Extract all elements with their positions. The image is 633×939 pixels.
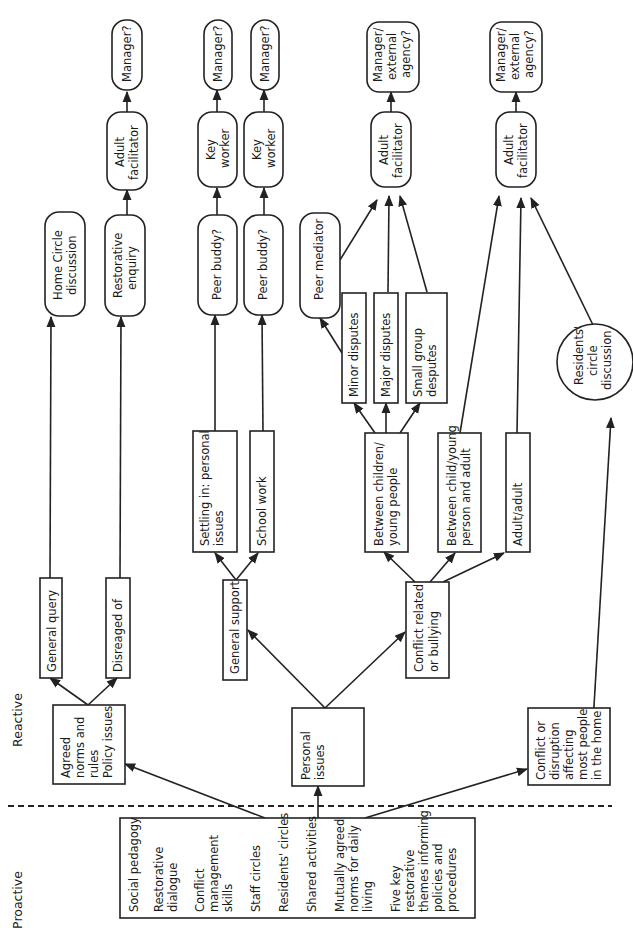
- node-manager-3: Manager?: [251, 20, 279, 90]
- svg-text:affecting: affecting: [562, 729, 576, 780]
- svg-text:General support: General support: [228, 580, 242, 674]
- svg-text:enquiry: enquiry: [125, 246, 139, 290]
- svg-text:most people: most people: [576, 709, 590, 780]
- node-restorative-enquiry: Restorative enquiry: [105, 215, 145, 316]
- svg-text:Between children/: Between children/: [372, 442, 386, 546]
- node-adult-facilitator-3: Adult facilitator: [496, 112, 536, 187]
- svg-text:Adult/adult: Adult/adult: [511, 482, 525, 546]
- svg-text:dialogue: dialogue: [166, 863, 180, 912]
- svg-text:external: external: [385, 33, 399, 80]
- node-key-worker-1: Key worker: [198, 112, 237, 187]
- node-residents-circle: Residents' circle discussion: [557, 324, 633, 400]
- node-conflict-home: Conflict or disruption affecting most pe…: [528, 708, 610, 785]
- svg-text:Adult: Adult: [502, 135, 516, 165]
- node-proactive-list: Social pedagogy Restorative dialogue Con…: [120, 810, 475, 918]
- node-general-support: General support: [223, 580, 247, 680]
- node-peer-buddy-2: Peer buddy?: [244, 215, 283, 315]
- svg-text:Key: Key: [250, 139, 264, 160]
- svg-text:Between child/young: Between child/young: [445, 425, 459, 546]
- svg-text:worker: worker: [218, 129, 232, 168]
- section-label-reactive: Reactive: [10, 693, 25, 747]
- node-between-child-adult: Between child/young person and adult: [438, 425, 481, 552]
- node-peer-mediator: Peer mediator: [300, 213, 340, 318]
- node-manager-2: Manager?: [204, 20, 232, 90]
- svg-text:Small group: Small group: [411, 328, 425, 397]
- svg-text:Personal: Personal: [299, 731, 313, 780]
- svg-text:issues: issues: [212, 510, 226, 546]
- restorative-approach-flow-diagram: Proactive Reactive: [0, 0, 633, 939]
- svg-text:Key: Key: [204, 139, 218, 160]
- svg-text:desputes: desputes: [425, 344, 439, 397]
- svg-text:Peer mediator: Peer mediator: [312, 219, 326, 300]
- svg-text:General query: General query: [45, 590, 59, 672]
- node-school-work: School work: [250, 431, 274, 552]
- svg-text:Settling in: personal: Settling in: personal: [198, 430, 212, 546]
- svg-text:Disreaged of: Disreaged of: [111, 598, 125, 672]
- svg-text:Peer buddy?: Peer buddy?: [256, 229, 270, 300]
- svg-text:themes informing: themes informing: [417, 810, 431, 912]
- svg-text:Staff circles: Staff circles: [249, 845, 263, 912]
- svg-text:Adult: Adult: [377, 135, 391, 165]
- svg-text:restorative: restorative: [403, 850, 417, 912]
- svg-text:Five key: Five key: [389, 865, 403, 912]
- svg-text:disruption: disruption: [548, 722, 562, 780]
- svg-text:Social pedagogy: Social pedagogy: [127, 817, 141, 912]
- svg-text:Major disputes: Major disputes: [379, 313, 393, 397]
- svg-text:issues: issues: [313, 744, 327, 780]
- svg-text:young people: young people: [386, 468, 400, 546]
- svg-text:or bullying: or bullying: [427, 611, 441, 672]
- svg-text:living: living: [361, 881, 375, 912]
- svg-text:facilitator: facilitator: [516, 123, 530, 178]
- node-small-group-disputes: Small group desputes: [406, 293, 447, 403]
- node-home-circle: Home Circle discussion: [45, 212, 85, 316]
- svg-text:worker: worker: [264, 129, 278, 168]
- svg-text:Mutually agreed: Mutually agreed: [333, 819, 347, 912]
- svg-text:Peer buddy?: Peer buddy?: [210, 229, 224, 300]
- node-key-worker-2: Key worker: [244, 112, 283, 187]
- svg-text:Conflict or: Conflict or: [534, 721, 548, 780]
- node-adult-adult: Adult/adult: [506, 433, 530, 552]
- node-major-disputes: Major disputes: [374, 293, 398, 403]
- node-manager-external-1: Manager/ external agency?: [367, 22, 419, 92]
- svg-text:Manager?: Manager?: [120, 25, 134, 82]
- svg-text:Manager/: Manager/: [371, 28, 385, 82]
- svg-text:Residents': Residents': [572, 326, 586, 385]
- node-conflict-bullying: Conflict related or bullying: [406, 582, 449, 678]
- node-settling-in: Settling in: personal issues: [193, 430, 237, 552]
- svg-text:agency?: agency?: [399, 30, 413, 78]
- node-manager-1: Manager?: [112, 20, 142, 90]
- node-agreed-norms: Agreed norms and rules Policy issues: [53, 705, 125, 784]
- svg-text:agency?: agency?: [522, 30, 536, 78]
- svg-text:rules: rules: [87, 750, 101, 778]
- node-manager-external-2: Manager/ external agency?: [490, 22, 542, 92]
- svg-text:facilitator: facilitator: [127, 125, 141, 180]
- svg-text:circle: circle: [586, 345, 600, 376]
- svg-text:Policy issues: Policy issues: [101, 706, 115, 778]
- svg-text:external: external: [508, 33, 522, 80]
- svg-text:Manager?: Manager?: [258, 25, 272, 82]
- svg-text:Agreed: Agreed: [59, 737, 73, 778]
- svg-text:Restorative: Restorative: [152, 847, 166, 912]
- svg-text:discussion: discussion: [600, 330, 614, 390]
- node-peer-buddy-1: Peer buddy?: [198, 215, 237, 315]
- node-personal-issues: Personal issues: [292, 708, 364, 786]
- node-disregard: Disreaged of: [106, 578, 130, 678]
- svg-text:norms and: norms and: [73, 717, 87, 778]
- svg-text:Manager/: Manager/: [494, 28, 508, 82]
- node-minor-disputes: Minor disputes: [342, 293, 366, 403]
- svg-text:norms for daily: norms for daily: [347, 825, 361, 912]
- svg-text:skills: skills: [221, 884, 235, 912]
- svg-text:in the home: in the home: [590, 711, 604, 780]
- node-adult-facilitator-1: Adult facilitator: [107, 112, 147, 190]
- section-label-proactive: Proactive: [10, 871, 25, 929]
- svg-text:facilitator: facilitator: [391, 123, 405, 178]
- svg-text:Minor disputes: Minor disputes: [347, 313, 361, 397]
- svg-text:person and adult: person and adult: [459, 448, 473, 546]
- svg-text:Home Circle: Home Circle: [51, 230, 65, 300]
- node-between-children: Between children/ young people: [365, 433, 408, 552]
- node-general-query: General query: [40, 578, 62, 678]
- svg-text:discussion: discussion: [65, 235, 79, 295]
- svg-text:policies and: policies and: [431, 843, 445, 912]
- svg-text:Conflict: Conflict: [193, 868, 207, 912]
- svg-text:Shared activities: Shared activities: [305, 816, 319, 912]
